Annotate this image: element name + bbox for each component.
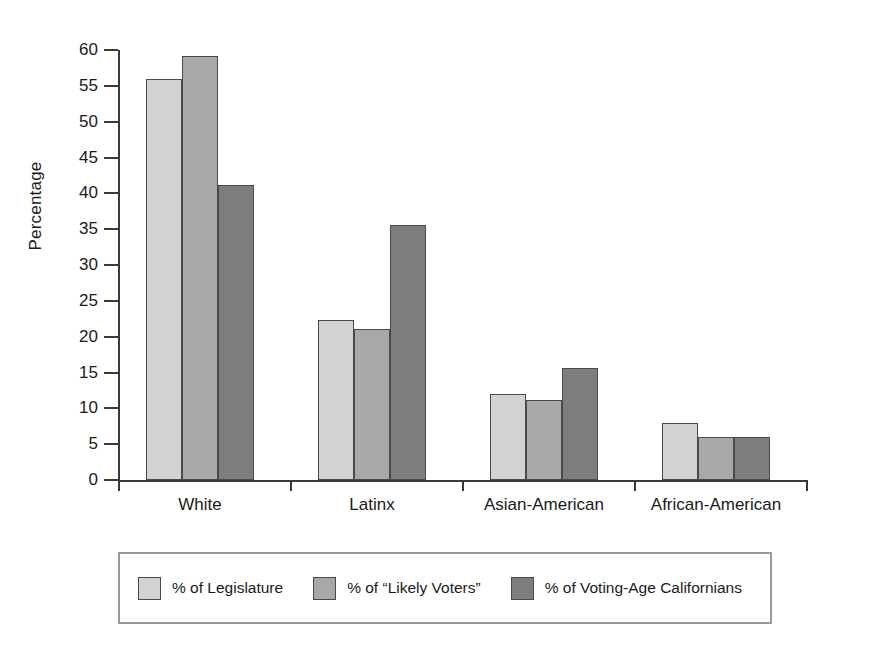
- y-axis-tick-label-wrap: 50: [42, 121, 98, 123]
- y-axis-tick: [104, 264, 118, 266]
- y-axis-tick-label-wrap: 55: [42, 85, 98, 87]
- y-axis-tick: [104, 443, 118, 445]
- legend-label: % of Voting-Age Californians: [545, 579, 742, 597]
- legend-entry: % of Legislature: [138, 577, 283, 600]
- y-axis-tick-label: 30: [52, 256, 98, 273]
- y-axis-tick-label-wrap: 35: [42, 228, 98, 230]
- y-axis-tick-label: 5: [52, 435, 98, 452]
- x-axis-label: Asian-American: [484, 495, 604, 515]
- bar: [662, 423, 698, 480]
- x-axis-tick: [634, 482, 636, 491]
- bar: [354, 329, 390, 480]
- bar-group: [146, 50, 254, 480]
- y-axis-tick-label: 10: [52, 399, 98, 416]
- y-axis-tick-label: 50: [52, 113, 98, 130]
- legend-entries: % of Legislature% of “Likely Voters”% of…: [120, 554, 770, 622]
- bar: [698, 437, 734, 480]
- x-axis-label: White: [178, 495, 221, 515]
- y-axis-tick: [104, 407, 118, 409]
- y-axis-tick-label-wrap: 45: [42, 157, 98, 159]
- y-axis-tick: [104, 157, 118, 159]
- y-axis-title: Percentage: [26, 106, 46, 306]
- legend: % of Legislature% of “Likely Voters”% of…: [118, 552, 772, 624]
- y-axis-tick-label-wrap: 25: [42, 300, 98, 302]
- x-axis-tick: [290, 482, 292, 491]
- x-axis-tick: [118, 482, 120, 491]
- bar: [562, 368, 598, 480]
- bar-group: [662, 50, 770, 480]
- y-axis-tick-label: 55: [52, 77, 98, 94]
- x-axis-tick: [806, 482, 808, 491]
- y-axis-tick: [104, 49, 118, 51]
- y-axis-tick-label-wrap: 40: [42, 192, 98, 194]
- bar: [318, 320, 354, 480]
- y-axis-tick-label: 20: [52, 328, 98, 345]
- legend-label: % of Legislature: [172, 579, 283, 597]
- y-axis-tick-label-wrap: 15: [42, 372, 98, 374]
- y-axis-tick: [104, 121, 118, 123]
- y-axis-tick-label-wrap: 30: [42, 264, 98, 266]
- y-axis-tick-label: 60: [52, 41, 98, 58]
- legend-swatch: [511, 577, 534, 600]
- y-axis-tick-label-wrap: 60: [42, 49, 98, 51]
- y-axis-tick: [104, 192, 118, 194]
- y-axis-tick: [104, 300, 118, 302]
- y-axis-tick-label: 25: [52, 292, 98, 309]
- y-axis-tick-label: 15: [52, 364, 98, 381]
- y-axis-tick: [104, 85, 118, 87]
- bar: [146, 79, 182, 480]
- x-axis-label: Latinx: [349, 495, 394, 515]
- bar-group: [490, 50, 598, 480]
- x-axis-label: African-American: [651, 495, 781, 515]
- y-axis-tick: [104, 479, 118, 481]
- legend-entry: % of Voting-Age Californians: [511, 577, 742, 600]
- y-axis-tick-label-wrap: 20: [42, 336, 98, 338]
- y-axis-tick-label: 45: [52, 149, 98, 166]
- y-axis-tick-label-wrap: 10: [42, 407, 98, 409]
- bar-group: [318, 50, 426, 480]
- y-axis-tick-label-wrap: 5: [42, 443, 98, 445]
- legend-swatch: [138, 577, 161, 600]
- bar: [734, 437, 770, 480]
- y-axis-tick-label: 0: [52, 471, 98, 488]
- y-axis-tick-label: 35: [52, 220, 98, 237]
- bar: [526, 400, 562, 480]
- legend-swatch: [313, 577, 336, 600]
- y-axis-tick: [104, 336, 118, 338]
- legend-entry: % of “Likely Voters”: [313, 577, 481, 600]
- y-axis-tick-label: 40: [52, 184, 98, 201]
- plot-area: Percentage 605550454035302520151050 Whit…: [0, 0, 887, 540]
- bar: [390, 225, 426, 480]
- bars-layer: [120, 50, 808, 480]
- bar: [182, 56, 218, 480]
- y-axis-tick: [104, 228, 118, 230]
- bar: [218, 185, 254, 480]
- bar-chart-figure: Percentage 605550454035302520151050 Whit…: [0, 0, 887, 653]
- legend-label: % of “Likely Voters”: [347, 579, 481, 597]
- y-axis-tick-label-wrap: 0: [42, 479, 98, 481]
- bar: [490, 394, 526, 480]
- x-axis-tick: [462, 482, 464, 491]
- y-axis-tick: [104, 372, 118, 374]
